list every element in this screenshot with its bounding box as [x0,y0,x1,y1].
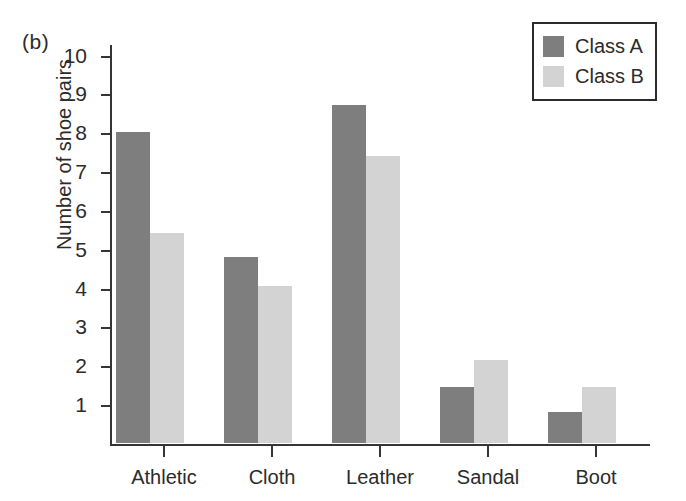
x-axis-tick-label: Leather [346,466,414,489]
x-axis-tick-label: Cloth [249,466,296,489]
y-axis-line [110,45,112,446]
y-axis-tick: 3 [101,327,110,329]
plot-area: 12345678910AthleticClothLeatherSandalBoo… [110,45,650,445]
legend: Class A Class B [532,22,657,101]
legend-swatch-class-b [543,66,564,87]
legend-label: Class B [575,65,644,88]
y-axis-tick-label: 3 [75,315,87,339]
x-axis-tick-label: Athletic [131,466,197,489]
y-axis-tick-label: 1 [75,393,87,417]
y-axis-tick-label: 5 [75,238,87,262]
panel-label: (b) [22,30,49,54]
legend-item: Class B [543,61,644,91]
bar-sandal-class-a [440,387,474,443]
bar-leather-class-b [366,156,400,443]
y-axis-tick-label: 6 [75,199,87,223]
bar-boot-class-a [548,412,582,443]
y-axis-tick: 10 [101,56,110,58]
y-axis-tick-label: 8 [75,121,87,145]
bar-cloth-class-b [258,286,292,443]
y-axis-tick: 5 [101,250,110,252]
legend-item: Class A [543,31,644,61]
y-axis-tick: 2 [101,366,110,368]
bar-boot-class-b [582,387,616,443]
x-axis-tick [271,446,273,457]
y-axis-tick-label: 4 [75,277,87,301]
y-axis-tick: 1 [101,405,110,407]
x-axis-tick [595,446,597,457]
legend-swatch-class-a [543,36,564,57]
bar-cloth-class-a [224,257,258,443]
y-axis-tick: 4 [101,289,110,291]
y-axis-tick-label: 9 [75,82,87,106]
x-axis-tick-label: Boot [575,466,616,489]
y-axis-tick: 7 [101,172,110,174]
bar-sandal-class-b [474,360,508,443]
legend-label: Class A [575,35,643,58]
figure-panel-b: (b) Number of shoe pairs 12345678910Athl… [0,0,686,501]
bar-leather-class-a [332,105,366,443]
bar-athletic-class-a [116,132,150,443]
y-axis-tick-label: 7 [75,160,87,184]
x-axis-tick [379,446,381,457]
y-axis-tick-label: 10 [64,44,87,68]
x-axis-tick-label: Sandal [457,466,519,489]
x-axis-tick [163,446,165,457]
y-axis-tick-label: 2 [75,354,87,378]
y-axis-tick: 9 [101,94,110,96]
y-axis-tick: 6 [101,211,110,213]
bar-athletic-class-b [150,233,184,443]
y-axis-tick: 8 [101,133,110,135]
x-axis-tick [487,446,489,457]
